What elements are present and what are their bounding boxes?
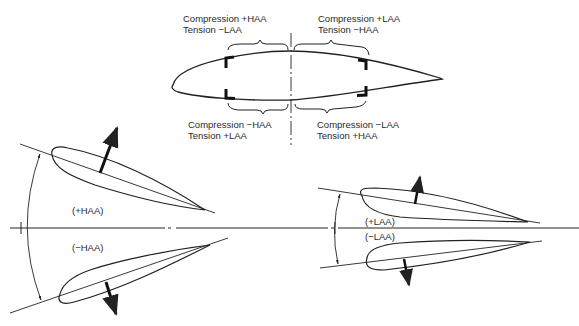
brace-lower-left [228, 103, 288, 114]
chord-line-plus-haa [20, 144, 215, 213]
lower-right-tension: Tension +HAA [317, 130, 399, 141]
airfoil-minus-haa [59, 245, 210, 303]
right-low-angle-section [318, 177, 542, 285]
upper-right-tension: Tension −HAA [318, 24, 400, 35]
lift-arrow-minus-haa [106, 282, 116, 314]
top-airfoil-outline [172, 51, 442, 100]
airfoil-plus-haa [52, 147, 205, 210]
label-upper-left: Compression +HAA Tension −LAA [183, 13, 267, 35]
angle-arc-haa [27, 154, 41, 300]
label-minus-haa: (−HAA) [72, 242, 103, 253]
lift-arrow-minus-laa [404, 259, 409, 285]
lower-right-compression: Compression −LAA [317, 119, 399, 130]
upper-right-compression: Compression +LAA [318, 13, 400, 24]
lift-arrow-plus-laa [415, 177, 420, 204]
brace-lower-right [295, 101, 366, 113]
lower-left-compression: Compression −HAA [188, 119, 272, 130]
label-minus-laa: (−LAA) [365, 231, 395, 242]
airfoil-load-diagram [0, 0, 579, 326]
chord-line-minus-haa [10, 238, 228, 313]
brace-upper-left [228, 40, 288, 50]
upper-left-tension: Tension −LAA [183, 24, 267, 35]
label-plus-laa: (+LAA) [365, 216, 395, 227]
label-lower-right: Compression −LAA Tension +HAA [317, 119, 399, 141]
spar-cap-upper-right [358, 60, 366, 70]
chord-line-plus-laa [318, 188, 540, 223]
upper-left-compression: Compression +HAA [183, 13, 267, 24]
lift-arrow-plus-haa [100, 128, 117, 173]
brace-upper-right [294, 40, 369, 55]
label-upper-right: Compression +LAA Tension −HAA [318, 13, 400, 35]
label-plus-haa: (+HAA) [72, 205, 103, 216]
spar-cap-lower-left [226, 89, 235, 99]
label-lower-left: Compression −HAA Tension +LAA [188, 119, 272, 141]
spar-cap-upper-left [226, 57, 234, 68]
lower-left-tension: Tension +LAA [188, 130, 272, 141]
